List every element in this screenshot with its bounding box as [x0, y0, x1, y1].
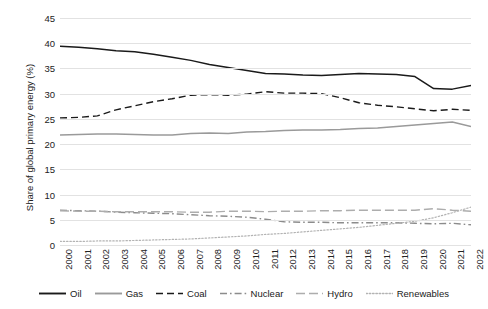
- x-axis-tick-label: 2001: [83, 249, 93, 270]
- x-axis-tick-label: 2003: [120, 249, 130, 270]
- y-gridline: [60, 245, 471, 246]
- legend-item-coal[interactable]: Coal: [156, 288, 207, 299]
- x-axis-tick-label: 2018: [400, 249, 410, 270]
- x-axis-tick-label: 2009: [232, 249, 242, 270]
- legend-label: Oil: [70, 288, 82, 299]
- y-axis-tick-label: 20: [44, 139, 55, 150]
- y-gridline: [60, 220, 471, 221]
- chart-legend: OilGasCoalNuclearHydroRenewables: [0, 284, 488, 302]
- y-axis-tick-label: 35: [44, 63, 55, 74]
- legend-label: Gas: [126, 288, 143, 299]
- legend-swatch-oil-icon: [39, 289, 66, 298]
- y-axis-tick-label: 40: [44, 38, 55, 49]
- x-axis-tick-label: 2014: [326, 249, 336, 270]
- y-gridline: [60, 18, 471, 19]
- legend-label: Hydro: [327, 288, 352, 299]
- x-axis-tick-labels: 2000200120022003200420052006200720082009…: [60, 249, 471, 289]
- x-axis-tick-label: 2012: [288, 249, 298, 270]
- x-axis-tick-label: 2007: [195, 249, 205, 270]
- y-gridline: [60, 169, 471, 170]
- y-axis-tick-label: 25: [44, 113, 55, 124]
- legend-item-oil[interactable]: Oil: [39, 288, 82, 299]
- y-gridline: [60, 119, 471, 120]
- y-axis-tick-label: 10: [44, 189, 55, 200]
- legend-item-hydro[interactable]: Hydro: [296, 288, 352, 299]
- x-axis-tick-label: 2015: [344, 249, 354, 270]
- x-axis-tick-label: 2010: [251, 249, 261, 270]
- series-line-nuclear: [60, 210, 471, 225]
- y-gridline: [60, 94, 471, 95]
- legend-label: Coal: [187, 288, 207, 299]
- x-axis-tick-label: 2011: [270, 249, 280, 269]
- legend-label: Renewables: [397, 288, 449, 299]
- y-gridline: [60, 195, 471, 196]
- x-axis-tick-label: 2006: [176, 249, 186, 270]
- x-axis-tick-label: 2016: [363, 249, 373, 270]
- y-axis-tick-label: 0: [50, 240, 55, 251]
- x-axis-tick-label: 2022: [475, 249, 485, 270]
- series-canvas: [60, 18, 471, 245]
- legend-swatch-renewables-icon: [366, 289, 393, 298]
- legend-swatch-hydro-icon: [296, 289, 323, 298]
- y-axis-tick-label: 30: [44, 88, 55, 99]
- x-axis-tick-label: 2013: [307, 249, 317, 270]
- legend-item-renewables[interactable]: Renewables: [366, 288, 449, 299]
- legend-label: Nuclear: [251, 288, 284, 299]
- legend-swatch-gas-icon: [95, 289, 122, 298]
- y-axis-title: Share of global primary energy (%): [24, 38, 35, 238]
- energy-share-line-chart: Share of global primary energy (%) 05101…: [0, 0, 488, 309]
- x-axis-tick-label: 2017: [382, 249, 392, 270]
- plot-area: 051015202530354045: [60, 18, 471, 245]
- y-gridline: [60, 68, 471, 69]
- x-axis-tick-label: 2005: [157, 249, 167, 270]
- x-axis-tick-label: 2019: [419, 249, 429, 270]
- y-axis-tick-label: 45: [44, 13, 55, 24]
- x-axis-tick-label: 2021: [456, 249, 466, 270]
- series-line-coal: [60, 92, 471, 118]
- y-gridline: [60, 144, 471, 145]
- series-line-gas: [60, 122, 471, 135]
- legend-swatch-nuclear-icon: [220, 289, 247, 298]
- x-axis-tick-label: 2020: [438, 249, 448, 270]
- y-gridline: [60, 43, 471, 44]
- x-axis-tick-label: 2008: [213, 249, 223, 270]
- y-axis-tick-label: 5: [50, 214, 55, 225]
- x-axis-tick-label: 2000: [64, 249, 74, 270]
- y-axis-tick-label: 15: [44, 164, 55, 175]
- x-axis-tick-label: 2004: [139, 249, 149, 270]
- legend-swatch-coal-icon: [156, 289, 183, 298]
- x-axis-tick-label: 2002: [101, 249, 111, 270]
- legend-item-nuclear[interactable]: Nuclear: [220, 288, 284, 299]
- legend-item-gas[interactable]: Gas: [95, 288, 143, 299]
